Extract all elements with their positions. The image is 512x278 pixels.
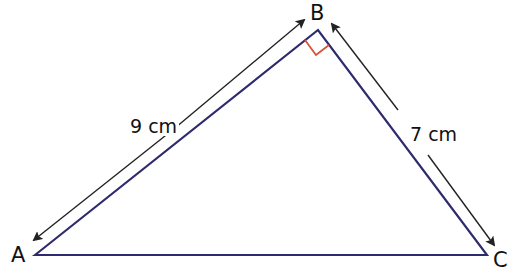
dimension-arrow-bc — [332, 24, 398, 110]
vertex-label-a: A — [11, 245, 25, 266]
dimension-arrow-bc — [428, 155, 494, 245]
dimension-arrow-ab — [34, 132, 170, 240]
triangle-diagram: A B C 9 cm 7 cm — [0, 0, 512, 278]
right-angle-marker — [305, 40, 329, 55]
dimension-arrow-ab — [175, 20, 304, 128]
side-length-bc: 7 cm — [408, 125, 459, 144]
vertex-label-c: C — [493, 250, 508, 271]
side-length-ab: 9 cm — [128, 117, 179, 136]
vertex-label-b: B — [310, 3, 324, 24]
